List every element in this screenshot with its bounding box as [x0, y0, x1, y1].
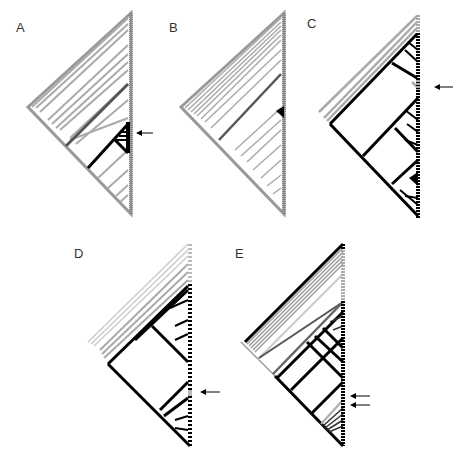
panel-b: B — [155, 0, 310, 230]
panel-e: E — [225, 230, 425, 461]
arrow-icon — [0, 0, 155, 230]
arrow-icon — [305, 0, 465, 230]
arrow-icon — [60, 230, 240, 461]
panel-a: A — [0, 0, 155, 230]
panel-d: D — [60, 230, 240, 461]
panel-c: C — [305, 0, 465, 230]
arrow-icon — [225, 230, 425, 461]
tree-diagram — [155, 0, 310, 230]
